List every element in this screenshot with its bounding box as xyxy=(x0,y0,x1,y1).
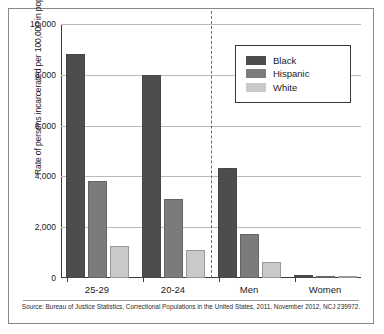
legend-swatch-hispanic xyxy=(246,69,266,78)
bar-hispanic-men[interactable] xyxy=(240,234,259,278)
x-axis-tick xyxy=(219,278,220,282)
legend-item[interactable]: White xyxy=(246,82,342,93)
x-axis-label: 25-29 xyxy=(67,284,127,295)
bar-group: 20-24 xyxy=(143,24,203,278)
legend-item[interactable]: Black xyxy=(246,55,342,66)
x-axis-label: 20-24 xyxy=(143,284,203,295)
legend-swatch-black xyxy=(246,56,266,65)
bar-hispanic-20-24[interactable] xyxy=(164,199,183,278)
bar-hispanic-women[interactable] xyxy=(316,276,335,278)
chart-legend: Black Hispanic White xyxy=(235,45,351,103)
bar-white-20-24[interactable] xyxy=(186,250,205,278)
y-axis-tick-label: 0 xyxy=(51,273,56,283)
x-axis-tick xyxy=(67,278,68,282)
y-axis-tick-label: 2,000 xyxy=(35,222,56,232)
gridline xyxy=(61,278,361,279)
chart-figure: Rate of persons incarcerated per 100,000… xyxy=(8,8,374,324)
y-axis-tick-label: 4,000 xyxy=(35,171,56,181)
bar-black-25-29[interactable] xyxy=(66,54,85,278)
source-caption: Source: Bureau of Justice Statistics, Co… xyxy=(19,303,363,312)
x-axis-tick xyxy=(143,278,144,282)
bar-white-men[interactable] xyxy=(262,262,281,279)
legend-label-black: Black xyxy=(273,55,296,66)
bar-white-women[interactable] xyxy=(338,276,357,278)
source-separator xyxy=(23,300,359,301)
y-axis-tick-label: 10,000 xyxy=(30,19,56,29)
bar-black-men[interactable] xyxy=(218,168,237,278)
legend-label-hispanic: Hispanic xyxy=(273,68,309,79)
bar-black-women[interactable] xyxy=(294,275,313,278)
x-axis-label: Men xyxy=(219,284,279,295)
bar-hispanic-25-29[interactable] xyxy=(88,181,107,278)
y-axis-tick-label: 6,000 xyxy=(35,121,56,131)
bar-white-25-29[interactable] xyxy=(110,246,129,278)
x-axis-label: Women xyxy=(295,284,355,295)
legend-label-white: White xyxy=(273,82,297,93)
legend-swatch-white xyxy=(246,83,266,92)
x-axis-tick xyxy=(295,278,296,282)
bar-group: 25-29 xyxy=(67,24,127,278)
y-axis-tick-label: 8,000 xyxy=(35,70,56,80)
group-divider-line xyxy=(211,11,212,278)
bar-black-20-24[interactable] xyxy=(142,75,161,278)
legend-item[interactable]: Hispanic xyxy=(246,68,342,79)
